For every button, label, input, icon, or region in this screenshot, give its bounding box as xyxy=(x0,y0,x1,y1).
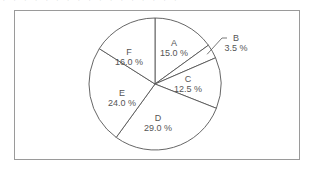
slice-label-d: D xyxy=(155,113,162,123)
slice-label-c: C xyxy=(185,74,192,84)
slice-value-f: 16.0 % xyxy=(115,57,143,67)
slice-value-a: 15.0 % xyxy=(160,48,188,58)
slice-value-c: 12.5 % xyxy=(174,84,202,94)
slice-label-e: E xyxy=(119,88,125,98)
slice-value-e: 24.0 % xyxy=(108,98,136,108)
slice-value-d: 29.0 % xyxy=(144,123,172,133)
slice-label-a: A xyxy=(171,38,177,48)
slice-label-b: B xyxy=(233,33,239,43)
slice-value-b: 3.5 % xyxy=(224,43,247,53)
pie-chart: A15.0 %B3.5 %C12.5 %D29.0 %E24.0 %F16.0 … xyxy=(0,0,312,175)
slice-label-f: F xyxy=(126,47,132,57)
